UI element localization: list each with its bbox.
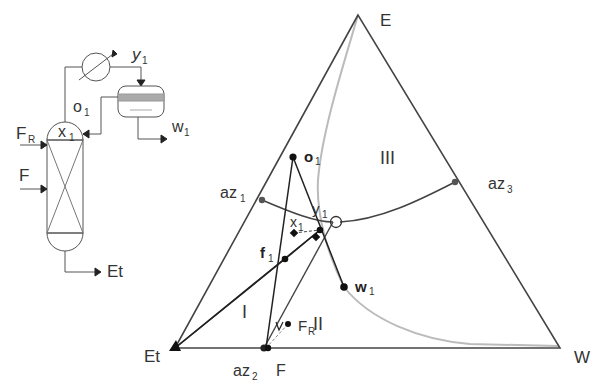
vertex-label-E: E (380, 11, 391, 30)
arrow-right-icon (161, 135, 167, 143)
label-Et: Et (107, 262, 123, 281)
arrow-down-icon (137, 80, 145, 86)
label-o1: o (73, 98, 82, 115)
label-F: F (19, 166, 29, 185)
arrow-down-icon (276, 322, 283, 330)
label-az1: az (220, 184, 237, 201)
label-f1-sub: 1 (268, 253, 274, 264)
label-y1: y (131, 45, 142, 64)
ternary-diagram: E Et W az 1 az 2 az 3 I II III o 1 y 1 x… (144, 11, 590, 382)
flowsheet (20, 50, 167, 276)
point-az1 (259, 197, 265, 203)
label-o1-sub: 1 (315, 156, 321, 167)
arrow-icon (112, 50, 117, 57)
label-w1-sub: 1 (184, 127, 190, 138)
point-F (265, 345, 271, 351)
arrow-right-icon (41, 185, 47, 193)
point-FR (285, 321, 291, 327)
arrow-right-icon (95, 268, 101, 276)
vertex-label-W: W (574, 348, 590, 367)
label-az2-sub: 2 (252, 371, 258, 382)
label-x1: x (58, 123, 66, 140)
label-w1: w (354, 278, 367, 295)
label-w1: w (171, 118, 184, 135)
point-f1 (282, 256, 289, 263)
label-y1: y (312, 200, 320, 217)
label-az1-sub: 1 (240, 193, 246, 204)
label-w1-sub: 1 (369, 286, 375, 297)
label-FR-sub: R (308, 326, 315, 337)
label-x1-sub: 1 (298, 222, 304, 233)
label-az3-sub: 3 (507, 184, 513, 195)
label-F: F (276, 362, 286, 379)
point-az3 (452, 179, 458, 185)
flowsheet-labels: F R F x 1 o 1 y 1 w 1 Et (16, 45, 190, 281)
diagram-canvas: F R F x 1 o 1 y 1 w 1 Et (0, 0, 608, 392)
vertex-label-Et: Et (144, 347, 160, 366)
label-FR: F (298, 317, 307, 334)
label-y1-sub: 1 (322, 209, 328, 220)
label-x1-sub: 1 (69, 132, 75, 143)
arrow-left-icon (83, 130, 89, 138)
arrow-right-icon (41, 141, 47, 149)
label-f1: f (260, 244, 266, 261)
region-label-III: III (380, 148, 395, 168)
binodal-curve (318, 15, 558, 346)
point-o1 (289, 153, 296, 160)
decanter (118, 86, 164, 117)
region-label-I: I (242, 302, 247, 322)
point-x1 (317, 227, 324, 234)
point-w1 (340, 283, 348, 291)
label-y1-sub: 1 (142, 55, 148, 66)
point-x1-aq (290, 229, 298, 237)
label-FR-sub: R (28, 134, 35, 145)
label-az3: az (488, 175, 505, 192)
boundary-y1-az3 (340, 182, 455, 222)
label-o1-sub: 1 (84, 107, 90, 118)
label-az2: az (233, 362, 250, 379)
label-FR: F (16, 124, 26, 143)
label-x1: x (290, 214, 297, 230)
point-mix (312, 233, 320, 241)
label-o1: o (304, 148, 313, 165)
distillation-column (47, 122, 83, 251)
